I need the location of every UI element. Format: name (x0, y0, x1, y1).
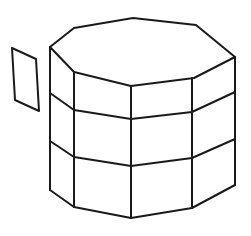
octagonal-prism (50, 18, 235, 218)
line-drawing-figure (0, 0, 251, 236)
figure-canvas (0, 0, 251, 236)
detached-panel (12, 48, 39, 111)
